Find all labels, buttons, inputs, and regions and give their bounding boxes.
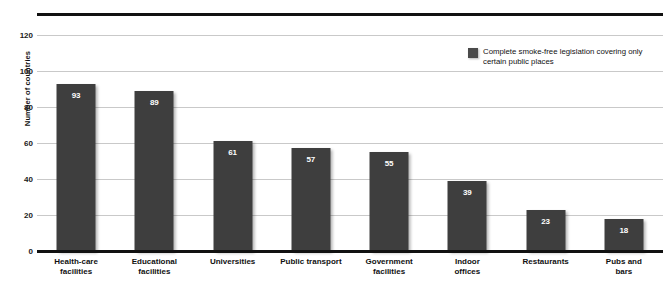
legend-label-line1: Complete smoke-free legislation covering… bbox=[483, 47, 642, 56]
chart-legend: Complete smoke-free legislation covering… bbox=[468, 47, 663, 66]
bar-group: 93Health-carefacilities bbox=[37, 35, 115, 251]
bar-value-label: 89 bbox=[135, 98, 174, 107]
bar-group: 39Indooroffices bbox=[428, 35, 506, 251]
bar[interactable]: 61 bbox=[213, 141, 252, 251]
bar[interactable]: 89 bbox=[135, 91, 174, 251]
x-axis-tick-label-line: facilities bbox=[114, 267, 194, 277]
top-divider-rule bbox=[37, 13, 663, 16]
x-axis-tick-label: Educationalfacilities bbox=[114, 257, 194, 277]
y-axis-tick-label: 20 bbox=[24, 211, 33, 220]
bar[interactable]: 23 bbox=[526, 210, 565, 251]
bar-value-label: 39 bbox=[448, 188, 487, 197]
y-axis-tick-label: 60 bbox=[24, 139, 33, 148]
x-axis-tick-label: Universities bbox=[193, 257, 273, 267]
bar-group: 55Governmentfacilities bbox=[350, 35, 428, 251]
bar-group: 89Educationalfacilities bbox=[115, 35, 193, 251]
y-axis-tick-label: 100 bbox=[20, 67, 33, 76]
bars-group: 93Health-carefacilities89Educationalfaci… bbox=[37, 35, 663, 251]
y-axis-tick-label: 120 bbox=[20, 31, 33, 40]
x-axis-tick-label: Public transport bbox=[271, 257, 351, 267]
bar-value-label: 55 bbox=[370, 159, 409, 168]
x-axis-tick-label: Pubs andbars bbox=[584, 257, 664, 277]
legend-swatch-icon bbox=[468, 48, 478, 58]
bar-value-label: 61 bbox=[213, 148, 252, 157]
bar-value-label: 23 bbox=[526, 217, 565, 226]
bar-value-label: 18 bbox=[604, 226, 643, 235]
x-axis-tick-label-line: Universities bbox=[193, 257, 273, 267]
y-axis-title: Number of countries bbox=[23, 29, 32, 149]
x-axis-tick-label-line: Pubs and bbox=[584, 257, 664, 267]
x-axis-tick-label-line: facilities bbox=[349, 267, 429, 277]
x-axis-tick-label-line: offices bbox=[427, 267, 507, 277]
bar-group: 57Public transport bbox=[272, 35, 350, 251]
x-axis-tick-label-line: bars bbox=[584, 267, 664, 277]
bar[interactable]: 39 bbox=[448, 181, 487, 251]
x-axis-baseline bbox=[37, 250, 663, 253]
legend-label: Complete smoke-free legislation covering… bbox=[483, 47, 663, 66]
bar-group: 23Restaurants bbox=[507, 35, 585, 251]
bar-group: 61Universities bbox=[194, 35, 272, 251]
bar[interactable]: 18 bbox=[604, 219, 643, 251]
x-axis-tick-label-line: Restaurants bbox=[506, 257, 586, 267]
x-axis-tick-label: Indooroffices bbox=[427, 257, 507, 277]
y-axis-tick-label: 40 bbox=[24, 175, 33, 184]
y-axis-tick-label: 80 bbox=[24, 103, 33, 112]
bar-value-label: 57 bbox=[291, 155, 330, 164]
x-axis-tick-label-line: Indoor bbox=[427, 257, 507, 267]
bar[interactable]: 93 bbox=[57, 84, 96, 251]
x-axis-tick-label-line: Government bbox=[349, 257, 429, 267]
y-axis-tick-label: 0 bbox=[29, 247, 33, 256]
plot-area: 120100806040200 93Health-carefacilities8… bbox=[37, 35, 663, 251]
bar[interactable]: 55 bbox=[370, 152, 409, 251]
x-axis-tick-label-line: Public transport bbox=[271, 257, 351, 267]
x-axis-tick-label-line: Educational bbox=[114, 257, 194, 267]
x-axis-tick-label-line: Health-care bbox=[36, 257, 116, 267]
x-axis-tick-label: Governmentfacilities bbox=[349, 257, 429, 277]
bar-value-label: 93 bbox=[57, 91, 96, 100]
bar-group: 18Pubs andbars bbox=[585, 35, 663, 251]
bar[interactable]: 57 bbox=[291, 148, 330, 251]
bar-chart-figure: Number of countries 120100806040200 93He… bbox=[0, 0, 671, 291]
x-axis-tick-label: Health-carefacilities bbox=[36, 257, 116, 277]
legend-label-line2: certain public places bbox=[483, 57, 554, 66]
x-axis-tick-label: Restaurants bbox=[506, 257, 586, 267]
x-axis-tick-label-line: facilities bbox=[36, 267, 116, 277]
